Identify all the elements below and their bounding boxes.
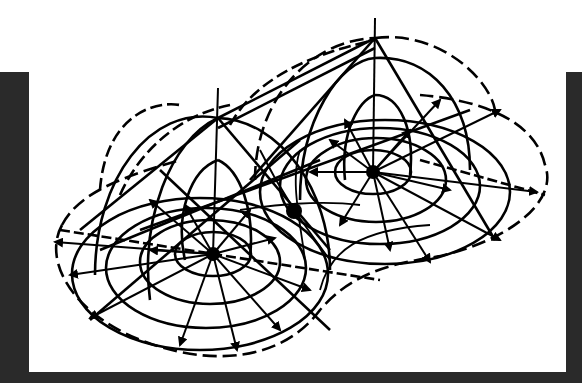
field-diagram xyxy=(0,0,582,383)
frame-right-fill xyxy=(566,72,582,383)
right-source-point xyxy=(366,165,380,179)
left-source-point xyxy=(206,247,220,261)
frame-bottom-fill xyxy=(0,372,582,383)
frame-left-fill xyxy=(0,72,29,383)
saddle-point xyxy=(286,203,302,219)
left-dome-arcs xyxy=(95,104,330,300)
left-contours xyxy=(72,198,328,350)
